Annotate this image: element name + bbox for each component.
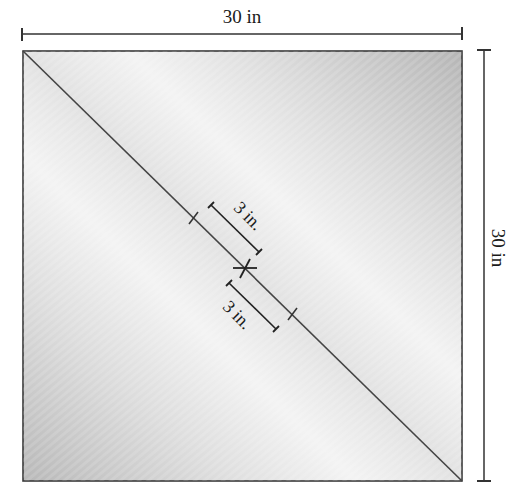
height-dimension: 30 in [477, 50, 509, 481]
height-label: 30 in [488, 229, 509, 268]
diagram-canvas: 30 in 30 in 3 in. 3 in. [0, 0, 525, 500]
width-dimension: 30 in [22, 6, 462, 41]
width-label: 30 in [223, 6, 262, 27]
